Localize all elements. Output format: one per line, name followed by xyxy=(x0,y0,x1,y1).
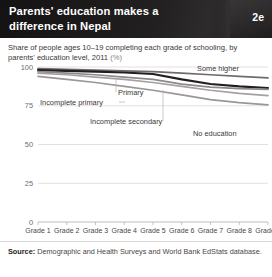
series-annotation-label: Some higher xyxy=(197,64,239,73)
x-axis-tick-label: Grade 7 xyxy=(198,227,223,234)
x-axis-tick-label: Grade 8 xyxy=(227,227,252,234)
y-axis-tick-label: 75 xyxy=(25,101,33,110)
figure-badge: 2e xyxy=(226,0,272,38)
chart-subtitle-main: Share of people ages 10–19 completing ea… xyxy=(8,43,237,62)
x-axis-tick-label: Grade 1 xyxy=(25,227,50,234)
source-label: Source: xyxy=(8,247,35,256)
x-axis-tick-label: Grade 9 xyxy=(255,227,272,234)
footer-divider xyxy=(0,241,272,242)
header-banner: Parents' education makes a difference in… xyxy=(0,0,272,38)
figure-panel: Parents' education makes a difference in… xyxy=(0,0,272,277)
chart-y-axis-labels: 0255075100 xyxy=(21,63,33,227)
page-title: Parents' education makes a difference in… xyxy=(9,4,209,34)
line-chart: 0255075100 Some higherPrimaryIncomplete … xyxy=(0,60,272,242)
x-axis-tick-label: Grade 4 xyxy=(112,227,137,234)
series-annotation-label: Incomplete secondary xyxy=(90,117,163,126)
x-axis-tick-label: Grade 6 xyxy=(169,227,194,234)
source-text: Demographic and Health Surveys and World… xyxy=(37,247,262,256)
x-axis-tick-label: Grade 2 xyxy=(54,227,79,234)
series-annotation-label: Incomplete primary xyxy=(40,98,103,107)
chart-x-axis-labels: Grade 1Grade 2Grade 3Grade 4Grade 5Grade… xyxy=(25,227,272,234)
x-axis-tick-label: Grade 5 xyxy=(140,227,165,234)
y-axis-tick-label: 25 xyxy=(25,179,33,188)
chart-canvas: 0255075100 Some higherPrimaryIncomplete … xyxy=(0,60,272,242)
y-axis-tick-label: 100 xyxy=(21,63,33,72)
figure-badge-label: 2e xyxy=(252,11,264,23)
series-annotation-label: No education xyxy=(193,129,237,138)
x-axis-tick-label: Grade 3 xyxy=(83,227,108,234)
source-note: Source: Demographic and Health Surveys a… xyxy=(8,247,262,256)
y-axis-tick-label: 50 xyxy=(25,140,33,149)
series-annotation-label: Primary xyxy=(118,88,144,97)
y-axis-tick-label: 0 xyxy=(29,218,33,227)
